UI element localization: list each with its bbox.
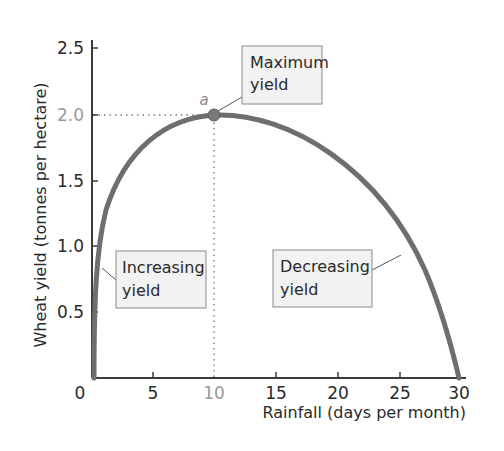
x-tick-label: 5 (148, 383, 159, 403)
inc-box-line2: yield (122, 281, 160, 300)
dec-box-line1: Decreasing (280, 257, 370, 276)
x-tick-label: 20 (327, 383, 349, 403)
y-axis-title: Wheat yield (tonnes per hectare) (31, 82, 50, 347)
x-tick-label: 30 (448, 383, 470, 403)
dec-box-line2: yield (280, 280, 318, 299)
point-label-a: a (199, 91, 208, 109)
y-tick-label: 1.0 (57, 236, 84, 256)
origin-label: 0 (75, 383, 86, 403)
x-tick-label: 15 (265, 383, 287, 403)
inc-box-line1: Increasing (122, 258, 205, 277)
x-axis-title: Rainfall (days per month) (263, 403, 467, 422)
y-tick-label-highlight: 2.0 (57, 105, 84, 125)
y-tick-label: 0.5 (57, 302, 84, 322)
yield-chart: 0.5 1.0 1.5 2.0 2.5 0 5 10 15 20 25 30 R… (0, 0, 504, 451)
y-tick-label: 1.5 (57, 171, 84, 191)
x-tick-label-highlight: 10 (203, 383, 225, 403)
x-tick-label: 25 (389, 383, 411, 403)
yield-curve (94, 115, 459, 378)
y-tick-label: 2.5 (57, 38, 84, 58)
max-box-line2: yield (250, 75, 288, 94)
inc-box-leader (102, 268, 116, 280)
dec-box-leader (372, 255, 401, 270)
max-box-line1: Maximum (250, 53, 329, 72)
max-box-leader (218, 97, 242, 111)
